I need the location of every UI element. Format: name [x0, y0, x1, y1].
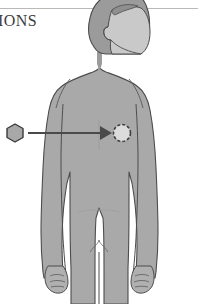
injection-site-circle	[114, 125, 131, 142]
head-group	[89, 0, 150, 54]
hexagon-marker	[7, 124, 23, 142]
neck-shading	[98, 52, 101, 71]
page-title: IONS	[0, 13, 37, 29]
left-hand	[45, 266, 68, 293]
face	[104, 6, 150, 54]
body-group	[41, 0, 158, 304]
right-hand	[131, 266, 154, 293]
anatomical-figure	[0, 0, 198, 304]
illustration-page: IONS	[0, 0, 198, 304]
